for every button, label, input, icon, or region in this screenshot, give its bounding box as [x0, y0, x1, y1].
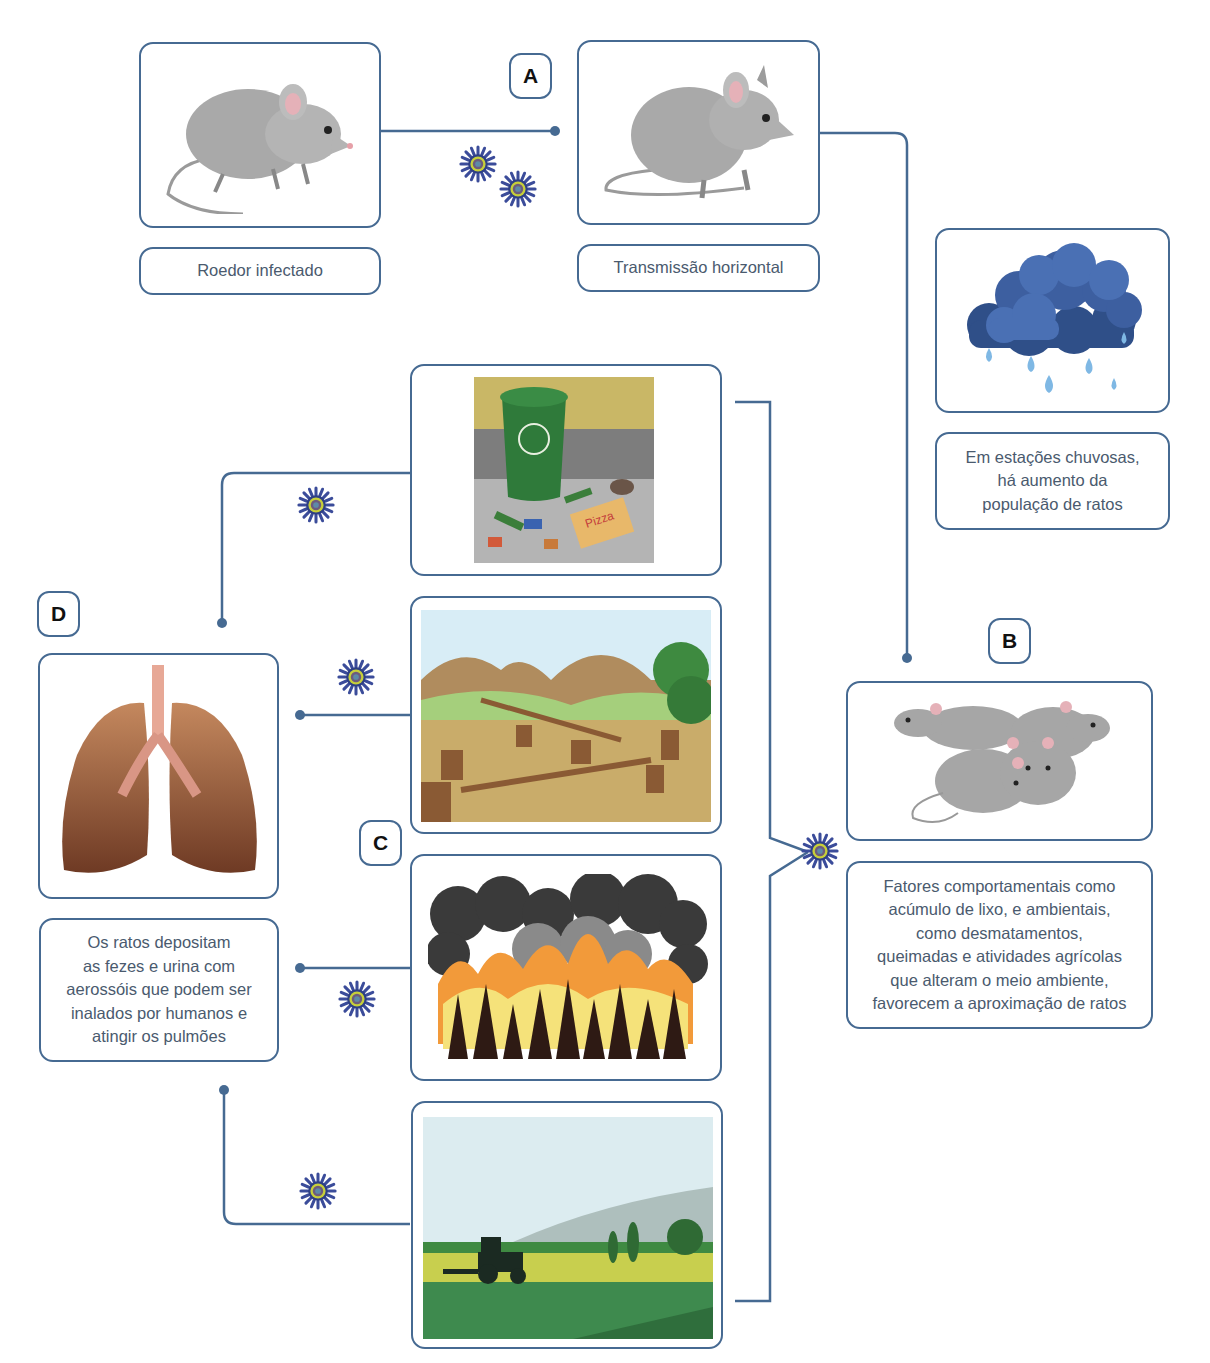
marker-a: A	[509, 53, 552, 99]
horizontal-transmission-label: Transmissão horizontal	[577, 244, 820, 292]
factors-text-line: Fatores comportamentais como	[872, 875, 1126, 899]
marker-d: D	[37, 591, 80, 637]
wildfire-card	[410, 854, 722, 1081]
factors-text-line: que alteram o meio ambiente,	[872, 969, 1126, 993]
virus-icon	[499, 170, 537, 208]
factors-text-line: como desmatamentos,	[872, 922, 1126, 946]
lungs-description: Os ratos depositam as fezes e urina com …	[39, 918, 279, 1062]
rain-cloud-illustration	[949, 240, 1159, 400]
garbage-bin-illustration: Pizza	[474, 377, 654, 563]
garbage-card: Pizza	[410, 364, 722, 576]
rainy-season-text-line: Em estações chuvosas,	[965, 446, 1139, 470]
virus-icon	[801, 832, 839, 870]
virus-icon	[337, 658, 375, 696]
virus-icon	[297, 486, 335, 524]
lungs-text-line: inalados por humanos e	[66, 1002, 251, 1026]
marker-c: C	[359, 820, 402, 866]
agriculture-card	[411, 1101, 723, 1349]
factors-text-line: favorecem a aproximação de ratos	[872, 992, 1126, 1016]
rainy-season-card	[935, 228, 1170, 413]
deforestation-illustration	[421, 610, 711, 822]
deforestation-card	[410, 596, 722, 834]
rainy-season-text-line: há aumento da	[965, 469, 1139, 493]
virus-icon	[299, 1172, 337, 1210]
marker-b: B	[988, 618, 1031, 664]
rat-group-illustration	[888, 693, 1118, 833]
rat-population-card	[846, 681, 1153, 841]
factors-text-line: acúmulo de lixo, e ambientais,	[872, 898, 1126, 922]
lungs-illustration	[52, 665, 267, 887]
wildfire-illustration	[428, 874, 708, 1064]
horizontal-transmission-card	[577, 40, 820, 225]
infected-rodent-card	[139, 42, 381, 228]
rainy-season-text-line: população de ratos	[965, 493, 1139, 517]
rainy-season-label: Em estações chuvosas, há aumento da popu…	[935, 432, 1170, 530]
infected-rodent-label: Roedor infectado	[139, 247, 381, 295]
tractor-field-illustration	[423, 1117, 713, 1339]
virus-icon	[459, 145, 497, 183]
rat-population-description: Fatores comportamentais como acúmulo de …	[846, 861, 1153, 1029]
factors-text-line: queimadas e atividades agrícolas	[872, 945, 1126, 969]
lungs-text-line: as fezes e urina com	[66, 955, 251, 979]
virus-icon	[338, 980, 376, 1018]
lungs-text-line: Os ratos depositam	[66, 931, 251, 955]
lungs-text-line: atingir os pulmões	[66, 1025, 251, 1049]
rat-illustration	[594, 60, 809, 210]
lungs-text-line: aerossóis que podem ser	[66, 978, 251, 1002]
mouse-illustration	[153, 64, 368, 214]
lungs-card	[38, 653, 279, 899]
